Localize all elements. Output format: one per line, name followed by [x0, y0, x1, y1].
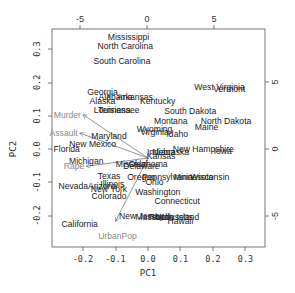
- y-tick: -0.2: [32, 205, 42, 225]
- x-tick: 0.3: [238, 254, 253, 264]
- top-tick-labels: -505: [76, 14, 217, 24]
- biplot-chart: -0.2-0.10.00.10.20.3 PC1 -505 -0.2-0.10.…: [0, 0, 295, 293]
- state-label: Oklahoma: [128, 159, 167, 169]
- state-label: Iowa: [214, 146, 232, 156]
- x-axis-bottom: [83, 247, 245, 251]
- state-label: Idaho: [166, 129, 188, 139]
- y-tick: 0.0: [32, 141, 42, 156]
- state-label: Florida: [54, 144, 80, 154]
- y-tick: 0.1: [32, 108, 42, 123]
- y-axis-right: [265, 82, 269, 216]
- state-label: Tennessee: [98, 105, 140, 115]
- state-label: Michigan: [69, 156, 104, 166]
- y-tick: 0.2: [32, 75, 42, 90]
- y-tick: -0.1: [32, 172, 42, 192]
- right-tick: -5: [270, 212, 280, 220]
- state-label: Colorado: [92, 191, 127, 201]
- state-label: California: [62, 219, 99, 229]
- x-axis-top: [80, 25, 214, 29]
- loading-label: Murder: [54, 110, 81, 120]
- right-tick: 0: [270, 146, 280, 151]
- loading-label: UrbanPop: [98, 231, 137, 241]
- state-label: Ohio: [145, 177, 163, 187]
- right-tick-labels: -505: [270, 79, 280, 220]
- state-label: South Dakota: [164, 106, 216, 116]
- state-label: Vermont: [213, 84, 246, 94]
- x-tick-labels: -0.2-0.10.00.10.20.3: [73, 254, 253, 264]
- state-label: Wisconsin: [190, 172, 229, 182]
- x-axis-label: PC1: [140, 268, 156, 278]
- state-label: Hawaii: [168, 216, 194, 226]
- top-tick: 0: [144, 14, 149, 24]
- loading-label: Assault: [50, 128, 79, 138]
- state-label: Maine: [195, 122, 219, 132]
- y-tick: 0.3: [32, 41, 42, 56]
- state-label: Nevada: [58, 181, 88, 191]
- x-tick: 0.2: [205, 254, 220, 264]
- state-label: Virginia: [140, 127, 169, 137]
- x-tick: -0.1: [105, 254, 125, 264]
- y-tick-labels: -0.2-0.10.00.10.20.3: [32, 41, 42, 225]
- top-tick: -5: [76, 14, 84, 24]
- state-label: Connecticut: [155, 196, 201, 206]
- state-label: Kentucky: [140, 96, 176, 106]
- state-label: South Carolina: [94, 56, 151, 66]
- y-axis-label: PC2: [8, 141, 18, 157]
- x-tick: -0.2: [73, 254, 93, 264]
- x-tick: 0.1: [173, 254, 188, 264]
- x-tick: 0.0: [140, 254, 155, 264]
- state-labels: MississippiNorth CarolinaSouth CarolinaW…: [54, 32, 252, 228]
- state-label: North Carolina: [98, 41, 154, 51]
- top-tick: 5: [211, 14, 216, 24]
- right-tick: 5: [270, 79, 280, 84]
